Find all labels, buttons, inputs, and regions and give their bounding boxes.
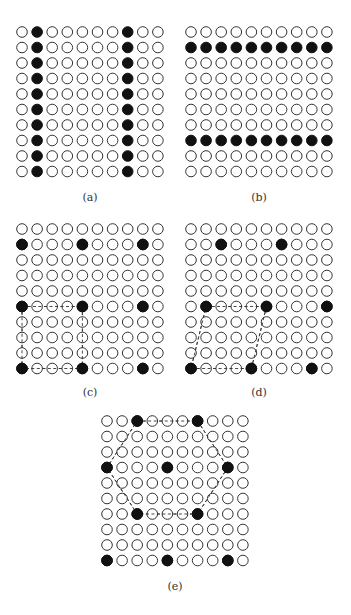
empty-site: [186, 301, 197, 312]
empty-site: [231, 270, 242, 281]
empty-site: [17, 42, 28, 53]
empty-site: [231, 104, 242, 115]
filled-site: [122, 151, 133, 162]
empty-site: [246, 89, 257, 100]
empty-site: [77, 27, 88, 38]
empty-site: [201, 255, 212, 266]
panel-d: (d): [186, 224, 333, 399]
empty-site: [153, 286, 164, 297]
empty-site: [32, 255, 43, 266]
empty-site: [62, 104, 73, 115]
empty-site: [47, 27, 58, 38]
panel-caption: (d): [251, 386, 267, 399]
empty-site: [238, 555, 249, 566]
empty-site: [102, 478, 113, 489]
empty-site: [246, 348, 257, 359]
empty-site: [117, 431, 128, 442]
empty-site: [107, 332, 118, 343]
empty-site: [17, 104, 28, 115]
empty-site: [153, 239, 164, 250]
empty-site: [216, 348, 227, 359]
empty-site: [92, 286, 103, 297]
empty-site: [162, 431, 173, 442]
empty-site: [117, 493, 128, 504]
empty-site: [207, 524, 218, 535]
empty-site: [231, 348, 242, 359]
filled-site: [132, 416, 143, 427]
empty-site: [138, 270, 149, 281]
empty-site: [261, 166, 272, 177]
empty-site: [62, 332, 73, 343]
filled-site: [322, 135, 333, 146]
empty-site: [153, 301, 164, 312]
filled-site: [138, 239, 149, 250]
empty-site: [107, 363, 118, 374]
empty-site: [186, 239, 197, 250]
empty-site: [77, 286, 88, 297]
empty-site: [107, 151, 118, 162]
empty-site: [107, 73, 118, 84]
empty-site: [92, 332, 103, 343]
empty-site: [102, 540, 113, 551]
empty-site: [62, 286, 73, 297]
empty-site: [62, 348, 73, 359]
filled-site: [307, 135, 318, 146]
empty-site: [32, 239, 43, 250]
empty-site: [138, 135, 149, 146]
filled-site: [32, 104, 43, 115]
empty-site: [92, 363, 103, 374]
empty-site: [231, 73, 242, 84]
filled-site: [32, 135, 43, 146]
filled-site: [246, 42, 257, 53]
empty-site: [107, 135, 118, 146]
empty-site: [276, 224, 287, 235]
panel-c: (c): [17, 224, 164, 399]
empty-site: [47, 332, 58, 343]
empty-site: [138, 332, 149, 343]
empty-site: [147, 493, 158, 504]
empty-site: [246, 224, 257, 235]
empty-site: [276, 270, 287, 281]
empty-site: [153, 166, 164, 177]
empty-site: [153, 224, 164, 235]
empty-site: [201, 89, 212, 100]
empty-site: [246, 239, 257, 250]
empty-site: [261, 317, 272, 328]
empty-site: [276, 89, 287, 100]
empty-site: [192, 462, 203, 473]
empty-site: [32, 270, 43, 281]
empty-site: [216, 332, 227, 343]
empty-site: [17, 270, 28, 281]
empty-site: [153, 120, 164, 131]
empty-site: [322, 120, 333, 131]
empty-site: [62, 166, 73, 177]
empty-site: [77, 151, 88, 162]
empty-site: [77, 224, 88, 235]
empty-site: [62, 42, 73, 53]
empty-site: [62, 89, 73, 100]
empty-site: [107, 89, 118, 100]
empty-site: [186, 104, 197, 115]
empty-site: [147, 431, 158, 442]
empty-site: [47, 151, 58, 162]
filled-site: [162, 462, 173, 473]
empty-site: [201, 166, 212, 177]
empty-site: [216, 104, 227, 115]
empty-site: [107, 224, 118, 235]
empty-site: [231, 286, 242, 297]
empty-site: [117, 524, 128, 535]
lattice-figure: (a)(b)(c)(d)(e): [0, 0, 351, 615]
empty-site: [201, 58, 212, 69]
empty-site: [153, 348, 164, 359]
empty-site: [186, 317, 197, 328]
empty-site: [201, 239, 212, 250]
empty-site: [47, 317, 58, 328]
empty-site: [47, 120, 58, 131]
empty-site: [223, 509, 234, 520]
empty-site: [92, 89, 103, 100]
empty-site: [177, 447, 188, 458]
empty-site: [132, 493, 143, 504]
empty-site: [138, 73, 149, 84]
empty-site: [276, 104, 287, 115]
empty-site: [307, 58, 318, 69]
